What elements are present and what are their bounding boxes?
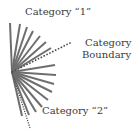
stimulus-rays [10, 23, 56, 116]
category-2-label: Category “2” [42, 105, 108, 116]
boundary-label-line2: Boundary [82, 49, 131, 60]
boundary-label-line1: Category [85, 37, 132, 48]
stimulus-ray [10, 23, 12, 72]
category-1-label: Category “1” [25, 6, 91, 17]
category-boundary-diagram: Category “1” Category Boundary Category … [0, 0, 132, 140]
